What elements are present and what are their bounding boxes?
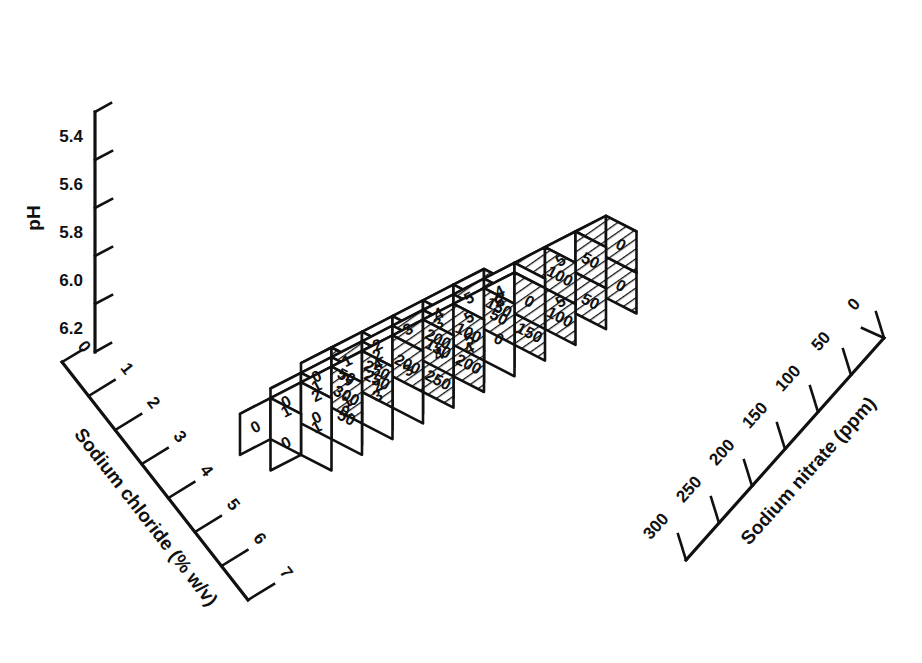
ph-axis-tick-label: 6.0	[59, 271, 83, 290]
nitrate-axis-tick	[777, 423, 785, 449]
chloride-axis-tick-label: 4	[196, 461, 217, 481]
nitrate-axis-tick	[678, 534, 686, 560]
nitrate-axis-tick-label: 0	[844, 294, 864, 314]
chloride-axis-tick-label: 1	[117, 359, 138, 378]
chloride-axis-tick	[89, 380, 115, 396]
ph-axis-top-cap	[95, 103, 111, 112]
figure-canvas: 5.45.65.86.06.2pH01234567Sodium chloride…	[0, 0, 922, 663]
nitrate-axis-tick-label: 250	[672, 472, 705, 506]
chloride-axis-title: Sodium chloride (% w/v)	[70, 424, 222, 610]
ph-axis-tick-label: 5.4	[59, 127, 83, 146]
nitrate-axis-tick-label: 150	[738, 398, 771, 432]
chloride-axis-tick	[195, 516, 221, 532]
chloride-axis-tick	[142, 448, 168, 464]
ph-axis-bottom-cap	[95, 343, 111, 352]
ph-axis-tick	[95, 295, 112, 304]
ph-axis-tick-label: 5.6	[59, 175, 83, 194]
ph-axis-tick-label: 6.2	[59, 319, 83, 338]
chloride-axis-tick-label: 5	[223, 495, 244, 514]
ph-axis-tick	[95, 151, 112, 160]
nitrate-axis-tick-label: 100	[771, 361, 804, 395]
nitrate-axis-tick	[843, 349, 851, 375]
ph-axis-tick	[95, 247, 112, 256]
chloride-axis-tick-label: 2	[143, 393, 164, 412]
chloride-axis-tick	[168, 482, 194, 498]
chloride-axis-tick-label: 6	[249, 529, 270, 548]
nitrate-axis-tick	[711, 497, 719, 523]
isometric-block-diagram: 5.45.65.86.06.2pH01234567Sodium chloride…	[0, 0, 922, 663]
chloride-axis-tick	[248, 584, 274, 600]
nitrate-axis-tick	[810, 386, 818, 412]
nitrate-axis-tick-label: 300	[639, 509, 672, 543]
nitrate-axis-tick-label: 200	[705, 435, 738, 469]
chloride-axis-tick	[115, 414, 141, 430]
nitrate-axis-tick-label: 50	[808, 328, 835, 355]
ph-axis-tick	[95, 199, 112, 208]
chloride-axis-tick-label: 3	[170, 427, 191, 446]
chloride-axis-tick	[221, 550, 247, 566]
nitrate-axis-tick	[744, 460, 752, 486]
ph-axis-tick-label: 5.8	[59, 223, 83, 242]
chloride-axis-tick-label: 7	[276, 563, 297, 582]
ph-axis-title: pH	[23, 205, 44, 230]
